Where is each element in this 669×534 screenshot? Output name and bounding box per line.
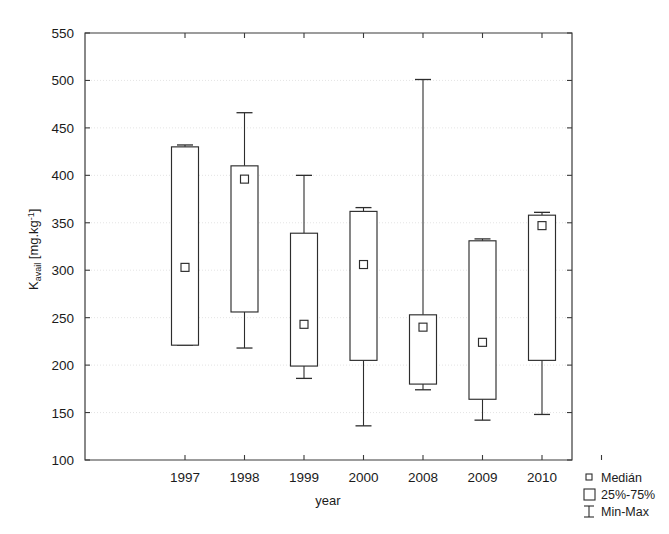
median-marker (181, 263, 189, 271)
legend-item-box: 25%-75% (584, 488, 655, 502)
median-marker (360, 261, 368, 269)
y-tick-label: 550 (51, 26, 74, 41)
x-tick-label-1997: 1997 (170, 470, 200, 485)
x-tick-label-1999: 1999 (289, 470, 319, 485)
iqr-box (529, 215, 556, 360)
iqr-box (231, 166, 258, 312)
legend-label-box: 25%-75% (601, 488, 655, 502)
boxplot-figure: 100150200250300350400450500550 199719981… (0, 0, 669, 534)
box-plot-2009 (469, 239, 496, 420)
y-tick-label: 400 (51, 168, 74, 183)
iqr-box (469, 241, 496, 399)
y-tick-label: 250 (51, 311, 74, 326)
median-marker (419, 323, 427, 331)
y-tick-label: 300 (51, 263, 74, 278)
x-tick-label-2000: 2000 (348, 470, 378, 485)
iqr-box (350, 211, 377, 360)
y-tick-label: 500 (51, 73, 74, 88)
y-tick-label: 100 (51, 453, 74, 468)
y-tick-label: 350 (51, 216, 74, 231)
iqr-box (291, 233, 318, 366)
iqr-box (172, 147, 199, 345)
boxplot-svg: 100150200250300350400450500550 199719981… (0, 0, 669, 534)
x-tick-label-2008: 2008 (408, 470, 438, 485)
x-tick-label-1998: 1998 (229, 470, 259, 485)
median-marker (241, 175, 249, 183)
median-marker (538, 222, 546, 230)
median-marker (300, 320, 308, 328)
x-axis-title: year (315, 493, 341, 508)
y-tick-label: 150 (51, 406, 74, 421)
y-tick-label: 450 (51, 121, 74, 136)
median-marker (479, 338, 487, 346)
y-tick-label: 200 (51, 358, 74, 373)
legend-label-median: Medián (601, 471, 642, 485)
x-tick-label-2010: 2010 (527, 470, 557, 485)
x-tick-label-2009: 2009 (467, 470, 497, 485)
box-plot-1997 (172, 145, 199, 345)
legend-label-whisker: Min-Max (601, 505, 650, 519)
